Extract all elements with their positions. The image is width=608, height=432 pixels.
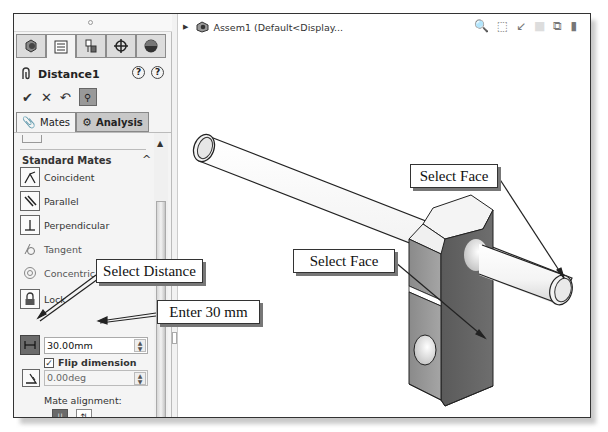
manager-tabs [16, 34, 166, 58]
feature-title: Distance1 [38, 68, 100, 81]
tab-feature-manager[interactable] [16, 34, 46, 58]
mate-distance[interactable] [20, 335, 40, 355]
mate-parallel-label: Parallel [44, 196, 79, 207]
lock-icon [20, 289, 40, 309]
standard-mates-heading: Standard Mates [22, 155, 112, 166]
tab-mates[interactable]: 📎 Mates [16, 112, 76, 132]
pin-button[interactable]: ⚲ [79, 88, 97, 106]
section-divider [20, 149, 146, 150]
property-manager-panel: Distance1 ? ? ✔ ✕ ↶ ⚲ 📎 Mates ⚙ Analysis [14, 14, 172, 417]
angle-input[interactable]: 0.00deg ▲▼ [44, 370, 148, 386]
mate-lock-label: Lock [44, 294, 66, 305]
tab-dimxpert-manager[interactable] [106, 34, 136, 58]
panel-grip[interactable] [14, 14, 172, 32]
tab-analysis-label: Analysis [96, 117, 143, 128]
tab-property-manager[interactable] [46, 34, 76, 58]
analysis-icon: ⚙ [82, 116, 92, 129]
coincident-icon [20, 167, 40, 187]
solidworks-window: Distance1 ? ? ✔ ✕ ↶ ⚲ 📎 Mates ⚙ Analysis [13, 13, 591, 418]
collapse-chevron-icon[interactable]: ^ [142, 153, 151, 166]
panel-splitter[interactable] [172, 14, 178, 417]
scroll-up-icon[interactable]: ▲ [157, 139, 163, 148]
bracket-block[interactable] [409, 195, 493, 406]
mate-tangent-label: Tangent [44, 244, 82, 255]
mate-subtabs: 📎 Mates ⚙ Analysis [16, 112, 149, 132]
partial-selection-icon [22, 135, 42, 143]
distance-icon [20, 335, 40, 355]
mate-tangent[interactable]: Tangent [20, 239, 82, 259]
dimxpert-manager-icon [113, 38, 129, 54]
mate-concentric-label: Concentric [44, 268, 95, 279]
graphics-area[interactable]: ▶ Assem1 (Default<Display... 🔍 ⬚ ↙ ■ ⧉ ▮ [179, 14, 591, 417]
mate-concentric[interactable]: Concentric [20, 263, 95, 283]
whats-wrong-icon[interactable]: ? [132, 66, 145, 79]
distance-input[interactable]: 30.00mm ▲▼ [44, 337, 148, 354]
tab-mates-label: Mates [40, 117, 70, 128]
mate-perpendicular-label: Perpendicular [44, 220, 109, 231]
flip-dimension-row[interactable]: ✓ Flip dimension [44, 357, 136, 368]
callout-enter-distance: Enter 30 mm [157, 300, 260, 324]
splitter-handle[interactable] [172, 332, 177, 344]
configuration-manager-icon [83, 38, 99, 54]
mate-perpendicular[interactable]: Perpendicular [20, 215, 109, 235]
mate-coincident-label: Coincident [44, 172, 95, 183]
undo-button[interactable]: ↶ [60, 90, 71, 105]
tangent-icon [20, 239, 40, 259]
callout-select-face-mid: Select Face [293, 249, 395, 273]
ok-button[interactable]: ✔ [22, 90, 33, 105]
pin-icon: ⚲ [84, 92, 91, 103]
mate-parallel[interactable]: Parallel [20, 191, 79, 211]
concentric-icon [20, 263, 40, 283]
callout-select-face-top: Select Face [410, 164, 498, 188]
flip-dimension-label: Flip dimension [58, 357, 136, 368]
mate-coincident[interactable]: Coincident [20, 167, 95, 187]
property-manager-actions: ✔ ✕ ↶ ⚲ [22, 88, 97, 106]
aligned-icon: ⇊ [56, 412, 64, 418]
anti-aligned-icon: ⇅ [80, 412, 88, 418]
anti-aligned-button[interactable]: ⇅ [76, 409, 92, 418]
mate-paperclip-icon [20, 67, 32, 81]
help-icons: ? ? [132, 66, 164, 79]
callout-select-distance: Select Distance [96, 259, 203, 283]
distance-value: 30.00mm [47, 340, 93, 351]
help-icon[interactable]: ? [151, 66, 164, 79]
feature-manager-icon [23, 38, 39, 54]
tab-display-manager[interactable] [136, 34, 166, 58]
parallel-icon [20, 191, 40, 211]
angle-spinner[interactable]: ▲▼ [134, 372, 146, 385]
grip-dot-icon [88, 20, 93, 25]
cancel-button[interactable]: ✕ [41, 90, 52, 105]
mate-alignment-label: Mate alignment: [44, 395, 122, 406]
aligned-button[interactable]: ⇊ [52, 409, 68, 418]
mate-lock[interactable]: Lock [20, 289, 66, 309]
assembly-model[interactable] [179, 14, 591, 417]
tab-analysis[interactable]: ⚙ Analysis [76, 112, 149, 132]
property-manager-icon [53, 39, 69, 55]
flip-dimension-checkbox[interactable]: ✓ [44, 358, 54, 368]
angle-value: 0.00deg [47, 372, 86, 383]
tab-configuration-manager[interactable] [76, 34, 106, 58]
property-manager-header: Distance1 ? ? [20, 66, 168, 82]
display-manager-icon [143, 38, 159, 54]
mates-icon: 📎 [22, 116, 36, 129]
angle-icon[interactable] [22, 369, 40, 387]
perpendicular-icon [20, 215, 40, 235]
distance-spinner[interactable]: ▲▼ [134, 339, 146, 352]
